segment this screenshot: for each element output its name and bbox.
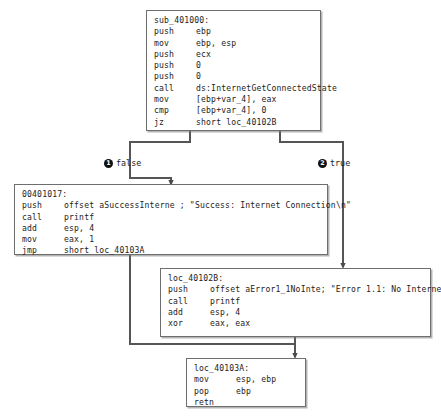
code-line: pushecx [154,49,313,60]
edge-into-exit [245,344,295,356]
code-line: jzshort loc_40102B [154,117,313,128]
code-line: popebp [194,386,298,397]
branch-false-text: false [116,158,141,168]
node-label: 00401017: [22,189,320,200]
node-00401017[interactable]: 00401017: pushoffset aSuccessInterne ; "… [14,184,328,255]
callout-marker-2: 2 [318,159,327,168]
code-line: cmp[ebp+var_4], 0 [154,105,313,116]
code-line: mov[ebp+var_4], eax [154,94,313,105]
branch-true-text: true [330,158,350,168]
code-line: jmpshort loc_40103A [22,245,320,256]
code-line: pushebp [154,26,313,37]
node-loc-40102B-body: loc_40102B: pushoffset aError1_1NoInte; … [161,269,430,334]
code-line: pushoffset aSuccessInterne ; "Success: I… [22,200,320,211]
node-sub-401000[interactable]: sub_401000: pushebp movebp, esp pushecx … [146,10,321,131]
code-line: callprintf [22,212,320,223]
code-line: push0 [154,71,313,82]
node-label: loc_40103A: [194,363,298,374]
node-sub-401000-body: sub_401000: pushebp movebp, esp pushecx … [147,11,320,133]
branch-label-true: 2 true [318,158,350,168]
callout-marker-1: 1 [104,159,113,168]
code-line: addesp, 4 [168,307,423,318]
code-line: movebp, esp [154,38,313,49]
figure-caption [6,409,306,418]
node-00401017-body: 00401017: pushoffset aSuccessInterne ; "… [15,185,327,262]
code-line: movesp, ebp [194,374,298,385]
branch-label-false: 1 false [104,158,141,168]
node-loc-40102B[interactable]: loc_40102B: pushoffset aError1_1NoInte; … [160,268,431,337]
code-line: callds:InternetGetConnectedState [154,83,313,94]
code-line: callprintf [168,296,423,307]
code-line: moveax, 1 [22,234,320,245]
node-loc-40103A[interactable]: loc_40103A: movesp, ebp popebp retn [186,358,306,407]
edge-false-arrow [130,176,171,183]
node-loc-40103A-body: loc_40103A: movesp, ebp popebp retn [187,359,305,413]
edge-false [130,131,190,176]
code-line: addesp, 4 [22,223,320,234]
code-line: retn [194,397,298,408]
node-label: loc_40102B: [168,273,423,284]
code-line: xoreax, eax [168,318,423,329]
code-line: push0 [154,60,313,71]
code-line: pushoffset aError1_1NoInte; "Error 1.1: … [168,284,423,295]
node-label: sub_401000: [154,15,313,26]
flow-graph-canvas: sub_401000: pushebp movebp, esp pushecx … [0,0,441,418]
